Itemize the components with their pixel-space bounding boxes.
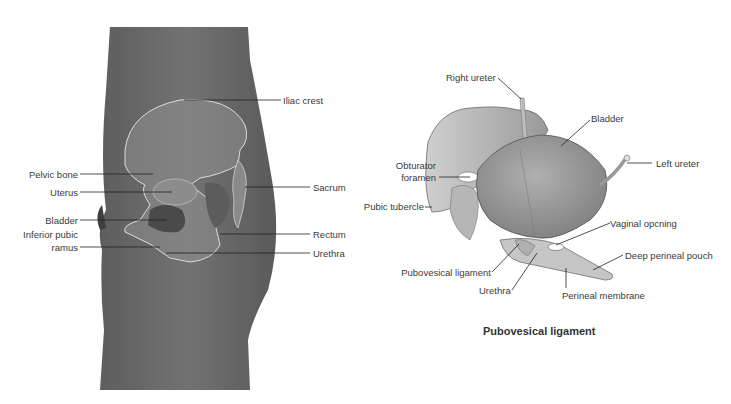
figure-caption: Pubovesical ligament bbox=[483, 325, 595, 337]
label-pubic-tubercle: Pubic tubercle bbox=[342, 201, 424, 212]
label-bladder-right: Bladder bbox=[591, 113, 624, 124]
label-perineal-membrane: Perineal membrane bbox=[562, 290, 645, 301]
label-rectum: Rectum bbox=[313, 229, 346, 240]
label-bladder-left: Bladder bbox=[26, 215, 78, 226]
label-iliac-crest: Iliac crest bbox=[283, 95, 323, 106]
label-pubovesical-ligament: Pubovesical ligament bbox=[395, 267, 491, 278]
label-pelvic-bone: Pelvic bone bbox=[26, 169, 78, 180]
label-right-ureter: Right ureter bbox=[446, 72, 496, 83]
label-urethra-right: Urethra bbox=[479, 285, 511, 296]
label-inferior-pubic-ramus-line2: ramus bbox=[8, 242, 78, 253]
label-obturator-foramen-line2: foramen bbox=[370, 172, 436, 183]
label-left-ureter: Left ureter bbox=[656, 158, 699, 169]
label-inferior-pubic-ramus-line1: Inferior pubic bbox=[8, 229, 78, 240]
label-sacrum: Sacrum bbox=[313, 182, 346, 193]
label-uterus: Uterus bbox=[26, 187, 78, 198]
label-vaginal-opening: Vaginal opcning bbox=[610, 218, 677, 229]
bladder-shape-left bbox=[148, 205, 185, 232]
label-obturator-foramen-line1: Obturator bbox=[370, 160, 436, 171]
label-urethra-left: Urethra bbox=[313, 248, 345, 259]
anatomy-diagram: Iliac crest Pelvic bone Uterus Sacrum Bl… bbox=[0, 0, 731, 404]
label-deep-perineal-pouch: Deep perineal pouch bbox=[625, 250, 713, 261]
